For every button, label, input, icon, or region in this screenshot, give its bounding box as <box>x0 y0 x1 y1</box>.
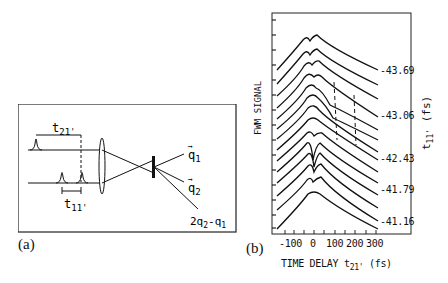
t11-tick-1: -43.06 <box>380 110 414 121</box>
x-tick-2: 100 <box>326 238 343 249</box>
t11-tick-0: -43.69 <box>380 65 414 76</box>
y-axis-label: FWM SIGNAL <box>253 81 263 135</box>
x-tick-4: 300 <box>366 238 383 249</box>
t11-tick-2: -42.43 <box>380 153 414 164</box>
right-axis-label: t11' (fs) <box>420 96 435 150</box>
panel-b-label: (b) <box>246 240 264 257</box>
x-axis-label: TIME DELAY t21' (fs) <box>281 258 392 272</box>
x-tick-0: -100 <box>279 238 302 249</box>
x-tick-1: 0 <box>310 238 316 249</box>
t11-tick-3: -41.79 <box>380 184 414 195</box>
t11-tick-4: -41.16 <box>380 216 414 227</box>
x-tick-3: 200 <box>346 238 363 249</box>
